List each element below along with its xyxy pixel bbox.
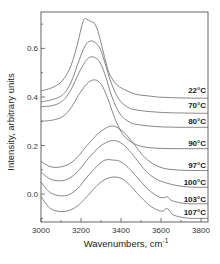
x-axis: 30003200340036003800 [32,218,210,235]
x-tick-label: 3600 [152,226,170,235]
x-tick-label: 3000 [32,226,50,235]
series-label: 90°C [188,139,206,148]
series-label: 70°C [188,101,206,110]
spectra-chart: 30003200340036003800 0.00.20.40.6 22°C70… [0,0,220,264]
series-curve-22c [41,18,208,98]
y-axis: 0.00.20.40.6 [27,24,45,218]
x-axis-title-text: Wavenumbers, cm [84,238,163,249]
series-label: 80°C [188,117,206,126]
series-labels: 22°C70°C80°C90°C97°C100°C103°C107°C [184,86,207,218]
series-curve-70c [41,41,208,113]
series-label: 22°C [188,86,206,95]
y-tick-label: 0.0 [27,190,39,199]
x-axis-title-superscript: -1 [163,237,169,244]
y-axis-title: Intensity, arbitrary units [5,73,16,171]
plot-frame [41,12,208,222]
series-curves [41,18,208,218]
y-tick-label: 0.6 [27,44,39,53]
x-axis-title: Wavenumbers, cm-1 [84,237,169,249]
series-label: 100°C [184,178,207,187]
series-label: 103°C [184,195,207,204]
x-tick-label: 3400 [112,226,130,235]
x-tick-label: 3800 [192,226,210,235]
y-tick-label: 0.4 [27,93,39,102]
y-tick-label: 0.2 [27,142,39,151]
x-tick-label: 3200 [72,226,90,235]
series-curve-80c [41,57,208,128]
series-label: 107°C [184,208,207,217]
series-curve-90c [41,80,208,149]
series-label: 97°C [188,161,206,170]
